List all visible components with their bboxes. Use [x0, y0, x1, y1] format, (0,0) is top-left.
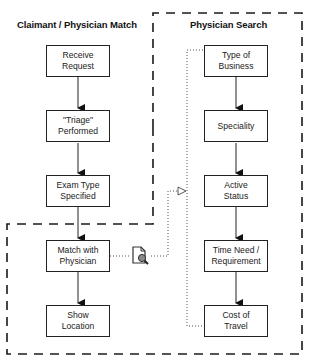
step-time-need-requirement: Time Need /Requirement [204, 240, 268, 272]
step-label-line2: Physician [57, 256, 98, 267]
step-label-line2: Business [219, 61, 254, 72]
claimant-physician-match-title: Claimant / Physician Match [17, 19, 137, 30]
step-label-line1: Exam Type [57, 180, 100, 191]
step-label-line1: Match with [57, 245, 98, 256]
step-label-line1: Show [62, 310, 95, 321]
step-label-line1: Receive [62, 50, 94, 61]
step-label-line2: Status [224, 191, 248, 202]
step-match-with-physician: Match withPhysician [46, 240, 110, 272]
step-receive-request: ReceiveRequest [46, 45, 110, 77]
document-search-icon [131, 246, 151, 266]
step-show-location: ShowLocation [46, 305, 110, 337]
step-label-line2: Requirement [211, 256, 260, 267]
step-label-line2: Performed [58, 126, 98, 137]
step-speciality: Speciality [204, 110, 268, 142]
step-active-status: ActiveStatus [204, 175, 268, 207]
step-cost-of-travel: Cost ofTravel [204, 305, 268, 337]
diagram-canvas: Claimant / Physician Match Physician Sea… [0, 0, 309, 362]
step-label-line1: Speciality [218, 121, 255, 132]
step-type-of-business: Type ofBusiness [204, 45, 268, 77]
step-label-line2: Specified [57, 191, 100, 202]
step-exam-type-specified: Exam TypeSpecified [46, 175, 110, 207]
step-label-line1: Active [224, 180, 248, 191]
step-label-line1: Cost of [222, 310, 249, 321]
step-label-line2: Location [62, 321, 95, 332]
physician-search-title: Physician Search [190, 19, 267, 30]
step-label-line1: "Triage" [58, 115, 98, 126]
step-label-line2: Travel [222, 321, 249, 332]
step-triage-performed: "Triage"Performed [46, 110, 110, 142]
step-label-line1: Time Need / [211, 245, 260, 256]
step-label-line2: Request [62, 61, 94, 72]
step-label-line1: Type of [219, 50, 254, 61]
